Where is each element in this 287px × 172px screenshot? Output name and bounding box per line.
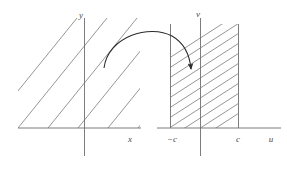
v-axis-label: v (196, 9, 200, 19)
mapping-arrow (104, 31, 191, 69)
figure-container: y x (0, 0, 287, 172)
tick-label-minus-c: −c (167, 134, 177, 144)
y-axis-label: y (78, 10, 83, 20)
tick-label-c: c (236, 134, 240, 144)
right-panel-group: v u −c c (157, 6, 281, 164)
x-axis-label: x (127, 134, 132, 144)
u-axis-label: u (269, 134, 274, 144)
math-figure: y x (0, 0, 287, 172)
